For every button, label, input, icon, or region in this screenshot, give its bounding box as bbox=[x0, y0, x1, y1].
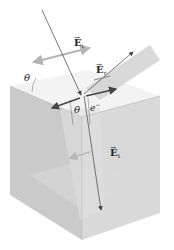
angle-theta-outer: θ bbox=[24, 73, 30, 83]
incident-field-label: →Ei bbox=[74, 38, 84, 49]
incident-field-arrow bbox=[34, 48, 89, 62]
electron-label: e− bbox=[90, 102, 100, 113]
transmitted-field-label: →Et bbox=[110, 148, 120, 159]
glass-block bbox=[10, 70, 160, 240]
angle-theta-inner: θ bbox=[74, 105, 80, 115]
reflected-field-label: →Er bbox=[96, 65, 107, 76]
reflection-diagram bbox=[0, 0, 174, 250]
